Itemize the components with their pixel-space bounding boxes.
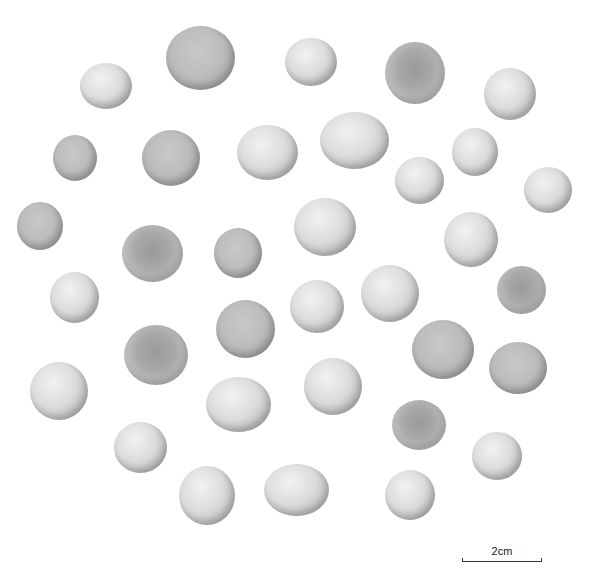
bead-object (395, 157, 444, 204)
bead-object (524, 167, 572, 213)
bead-object (472, 432, 522, 480)
bead-object (214, 228, 262, 278)
bead-object (497, 266, 546, 314)
photo-canvas: 2cm (0, 0, 591, 576)
bead-object (452, 128, 498, 176)
bead-object (30, 362, 88, 420)
bead-object (412, 320, 474, 379)
bead-object (320, 112, 389, 169)
bead-object (53, 135, 97, 181)
bead-object (216, 300, 275, 358)
bead-object (206, 377, 271, 432)
bead-object (304, 358, 362, 415)
bead-object (237, 125, 298, 180)
bead-object (80, 63, 132, 109)
bead-object (290, 280, 344, 333)
bead-object (361, 265, 419, 322)
bead-object (264, 464, 329, 516)
bead-object (489, 342, 547, 394)
bead-object (385, 470, 435, 520)
bead-object (285, 38, 337, 86)
bead-object (50, 272, 99, 323)
bead-object (385, 42, 445, 104)
bead-object (142, 130, 200, 186)
scale-line (462, 561, 542, 562)
bead-object (17, 202, 63, 250)
bead-object (122, 225, 183, 282)
scale-label: 2cm (462, 545, 542, 557)
bead-object (294, 198, 356, 256)
bead-object (484, 68, 536, 120)
bead-object (179, 466, 235, 525)
bead-object (114, 422, 167, 473)
bead-object (444, 212, 498, 267)
bead-object (166, 26, 235, 90)
bead-object (392, 400, 446, 450)
bead-object (124, 325, 188, 385)
